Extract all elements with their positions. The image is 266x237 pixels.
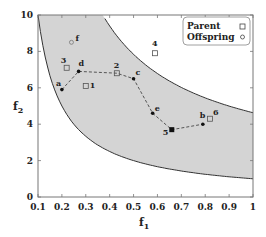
y-tick-label: 6: [27, 83, 33, 93]
x-tick-label: 0.4: [102, 202, 118, 212]
y-axis-label: f2: [13, 100, 23, 115]
pareto-chart: 0.10.20.30.40.50.60.70.80.91 0246810 123…: [0, 0, 266, 237]
x-axis-label: f1: [139, 216, 149, 231]
x-tick-label: 0.1: [30, 202, 46, 212]
point-label-6: 6: [213, 107, 219, 117]
parent-point-5: [169, 127, 174, 132]
legend: Parent Offspring: [183, 17, 250, 45]
point-label-d: d: [79, 58, 85, 68]
legend-parent-label: Parent: [187, 21, 221, 31]
x-tick-label: 0.2: [54, 202, 70, 212]
offspring-point-b: [201, 122, 205, 126]
point-label-c: c: [136, 67, 141, 77]
offspring-point-a: [60, 88, 64, 92]
x-tick-label: 1: [250, 202, 256, 212]
point-label-3: 3: [61, 55, 67, 65]
x-tick-label: 0.6: [150, 202, 166, 212]
point-label-1: 1: [90, 80, 96, 90]
x-tick-label: 0.9: [221, 202, 237, 212]
point-label-2: 2: [114, 60, 120, 70]
legend-offspring-label: Offspring: [187, 32, 235, 42]
y-tick-label: 0: [27, 192, 33, 202]
point-label-e: e: [155, 103, 160, 113]
offspring-point-c: [132, 77, 136, 81]
y-tick-label: 8: [27, 46, 33, 56]
point-label-a: a: [56, 78, 61, 88]
y-tick-label: 2: [27, 156, 33, 166]
x-tick-label: 0.3: [78, 202, 94, 212]
point-label-4: 4: [152, 38, 158, 48]
x-tick-label: 0.8: [197, 202, 213, 212]
point-label-b: b: [200, 110, 206, 120]
y-tick-label: 10: [20, 10, 33, 20]
point-label-f: f: [75, 33, 79, 43]
y-tick-label: 4: [27, 119, 33, 129]
x-tick-label: 0.5: [126, 202, 142, 212]
point-label-5: 5: [163, 127, 169, 137]
offspring-point-d: [77, 70, 81, 74]
parent-point-4: [153, 51, 158, 56]
x-tick-label: 0.7: [173, 202, 189, 212]
